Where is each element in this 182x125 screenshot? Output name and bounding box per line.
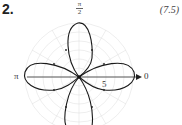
polar-rose-plot <box>0 0 182 125</box>
polar-grid <box>25 23 133 125</box>
rose-curve <box>25 23 135 125</box>
axis-arrow-icon <box>136 74 142 80</box>
origin-point <box>77 75 81 79</box>
